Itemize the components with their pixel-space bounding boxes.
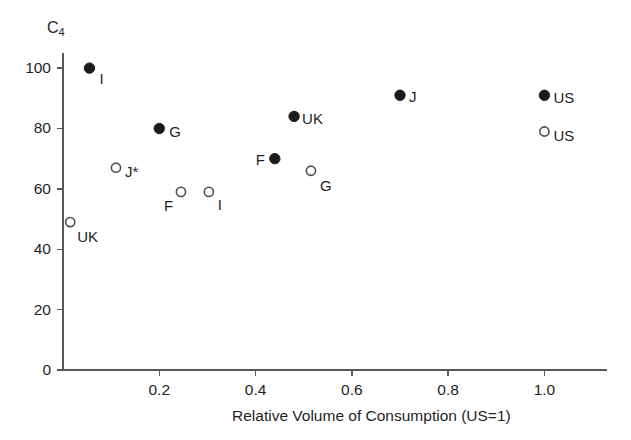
data-point-open — [306, 166, 315, 175]
scatter-chart: C4 020406080100 0.20.40.60.81.0 IGUKJUSF… — [0, 0, 631, 440]
data-point-label: UK — [77, 229, 98, 244]
axes — [63, 53, 607, 370]
data-point-label: US — [553, 128, 574, 143]
data-point-filled — [395, 90, 405, 100]
y-axis-title-subscript: 4 — [59, 26, 65, 38]
data-point-label: F — [164, 198, 173, 213]
data-point-label: G — [320, 178, 332, 193]
data-point-label: I — [218, 197, 222, 212]
data-point-label: UK — [302, 111, 323, 126]
data-point-open — [176, 187, 185, 196]
x-tick-label: 1.0 — [521, 382, 567, 398]
x-tick-label: 0.4 — [233, 382, 279, 398]
data-point-label: US — [553, 90, 574, 105]
data-point-open — [204, 187, 213, 196]
data-point-label: I — [99, 71, 103, 86]
data-point-filled — [154, 123, 164, 133]
data-points — [66, 63, 550, 227]
x-tick-label: 0.6 — [329, 382, 375, 398]
data-point-filled — [539, 90, 549, 100]
data-point-open — [540, 127, 549, 136]
y-tick-label: 0 — [11, 362, 51, 378]
y-tick-label: 80 — [11, 120, 51, 136]
data-point-filled — [84, 63, 94, 73]
y-tick-label: 100 — [11, 60, 51, 76]
data-point-label: F — [256, 152, 265, 167]
data-point-filled — [270, 153, 280, 163]
x-tick-label: 0.2 — [136, 382, 182, 398]
x-tick-marks — [159, 370, 544, 376]
y-tick-label: 40 — [11, 241, 51, 257]
data-point-label: J — [409, 89, 417, 104]
data-point-label: J* — [125, 164, 138, 179]
data-point-open — [111, 163, 120, 172]
y-axis-title-main: C — [47, 19, 59, 36]
y-axis-title: C4 — [47, 20, 65, 36]
y-tick-label: 20 — [11, 302, 51, 318]
x-axis-title: Relative Volume of Consumption (US=1) — [232, 408, 511, 424]
data-point-filled — [289, 111, 299, 121]
data-point-label: G — [169, 124, 181, 139]
data-point-open — [66, 217, 75, 226]
x-tick-label: 0.8 — [425, 382, 471, 398]
y-tick-label: 60 — [11, 181, 51, 197]
y-tick-marks — [57, 68, 63, 370]
plot-canvas — [0, 0, 631, 440]
